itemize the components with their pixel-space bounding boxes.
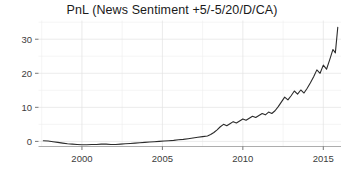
x-tick-label: 2010 <box>232 153 253 164</box>
chart-container: PnL (News Sentiment +5/-5/20/D/CA) 01020… <box>0 0 344 173</box>
data-series-layer <box>43 27 337 144</box>
x-axis-tick-labels: 2000200520102015 <box>71 153 333 164</box>
x-tick-label: 2000 <box>71 153 92 164</box>
tick-marks <box>35 39 323 150</box>
y-tick-label: 0 <box>27 136 32 147</box>
y-tick-label: 10 <box>21 102 32 113</box>
x-tick-label: 2015 <box>313 153 334 164</box>
y-tick-label: 20 <box>21 68 32 79</box>
plot-area: 0102030 2000200520102015 <box>0 0 344 173</box>
y-tick-label: 30 <box>21 34 32 45</box>
y-axis-tick-labels: 0102030 <box>21 34 32 147</box>
x-tick-label: 2005 <box>152 153 173 164</box>
major-gridlines <box>39 21 342 147</box>
data-line-pnl <box>43 27 337 144</box>
